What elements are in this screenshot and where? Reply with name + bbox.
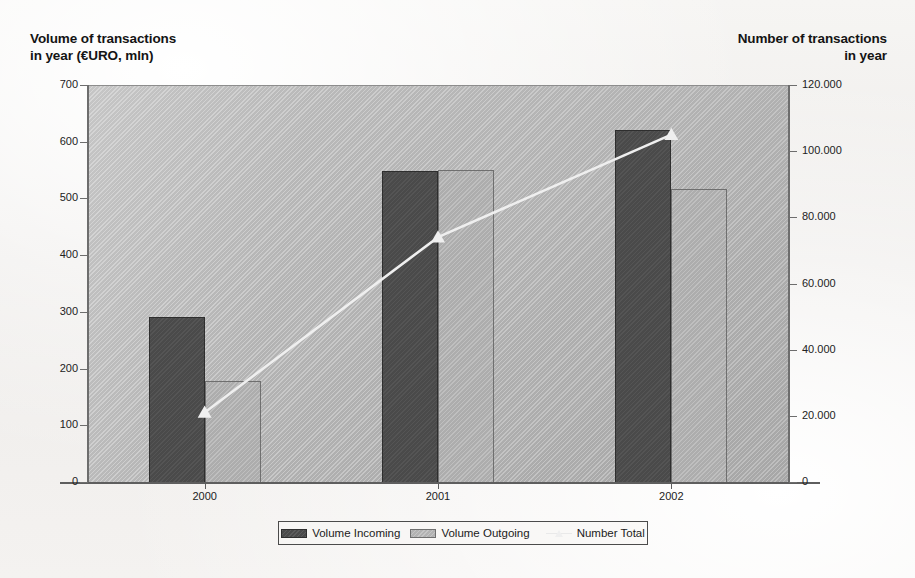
legend-label-outgoing: Volume Outgoing [441,527,529,539]
left-tick-label: 500 [26,191,78,203]
left-tick-label: 600 [26,135,78,147]
right-tick-label: 80.000 [802,210,836,222]
left-tick-label: 0 [26,475,78,487]
x-tick-label: 2000 [165,490,245,502]
right-tick-label: 100.000 [802,144,842,156]
chart-legend: Volume Incoming Volume Outgoing Number T… [278,521,648,545]
bar-incoming-2001 [382,171,438,483]
left-tick-mark [80,369,88,370]
legend-item-total: Number Total [546,527,645,539]
left-tick-mark [80,312,88,313]
legend-swatch-incoming [281,529,307,538]
legend-item-outgoing: Volume Outgoing [410,527,529,539]
legend-item-incoming: Volume Incoming [281,527,400,539]
x-tick-label: 2001 [398,490,478,502]
bar-incoming-2002 [615,130,671,483]
left-tick-label: 100 [26,418,78,430]
right-tick-label: 120.000 [802,78,842,90]
left-tick-label: 700 [26,78,78,90]
right-tick-mark [789,151,797,152]
right-tick-mark [789,217,797,218]
legend-marker-line-icon [546,529,572,538]
left-tick-mark [80,255,88,256]
legend-swatch-outgoing [410,529,436,538]
left-axis-line [87,85,89,483]
left-tick-label: 400 [26,248,78,260]
x-tick-mark [205,482,206,489]
plot-area [88,85,788,483]
right-tick-mark [789,350,797,351]
right-tick-label: 40.000 [802,343,836,355]
left-tick-mark [80,142,88,143]
bar-outgoing-2002 [671,189,727,483]
left-tick-mark [80,198,88,199]
right-tick-label: 20.000 [802,409,836,421]
left-tick-label: 200 [26,362,78,374]
bar-outgoing-2000 [205,381,261,483]
left-tick-label: 300 [26,305,78,317]
bar-outgoing-2001 [438,170,494,483]
right-tick-mark [789,416,797,417]
left-tick-mark [80,85,88,86]
left-tick-mark [80,482,88,483]
legend-label-incoming: Volume Incoming [312,527,400,539]
right-tick-mark [789,482,797,483]
right-tick-mark [789,85,797,86]
x-tick-mark [438,482,439,489]
x-axis-line [60,482,820,484]
right-tick-label: 60.000 [802,277,836,289]
left-tick-mark [80,425,88,426]
x-tick-mark [671,482,672,489]
right-tick-label: 0 [802,475,808,487]
right-axis-title: Number of transactions in year [738,30,887,64]
legend-label-total: Number Total [577,527,645,539]
right-tick-mark [789,284,797,285]
left-axis-title: Volume of transactions in year (€URO, ml… [30,30,176,64]
chart-figure: Volume of transactions in year (€URO, ml… [0,0,915,578]
x-tick-label: 2002 [631,490,711,502]
bar-incoming-2000 [149,317,205,483]
